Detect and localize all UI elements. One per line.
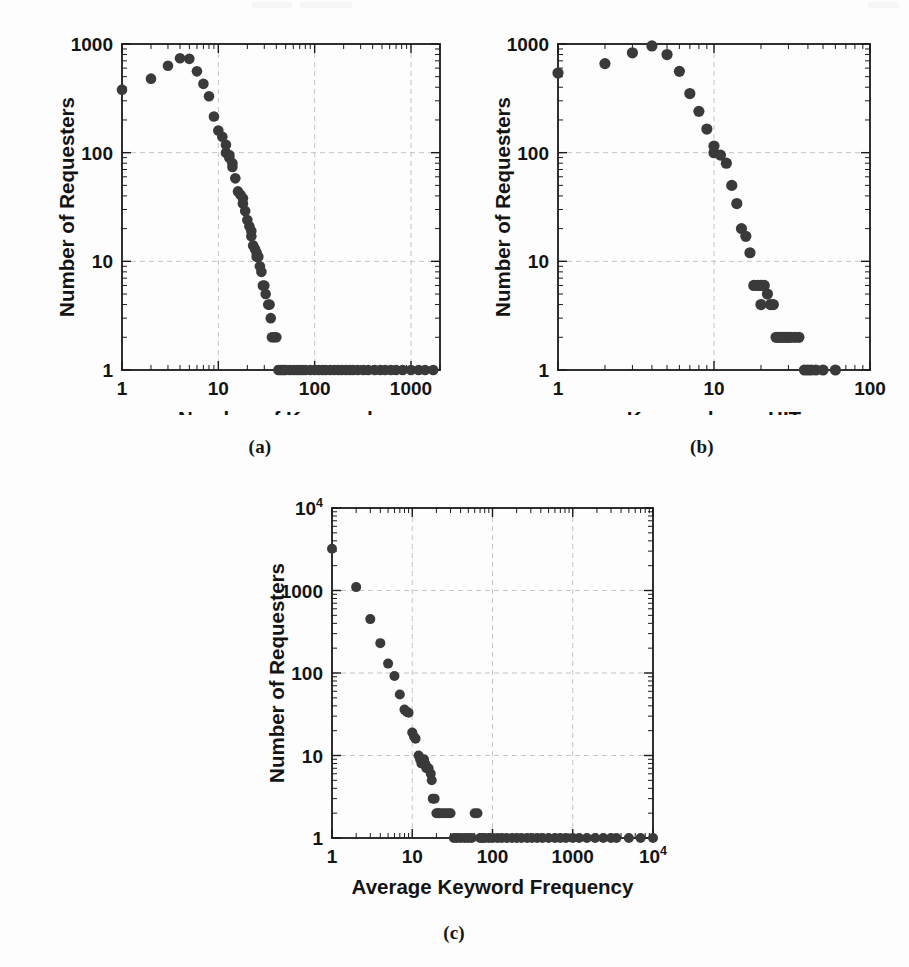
data-point xyxy=(184,54,195,65)
x-tick-label: 100 xyxy=(854,378,886,399)
x-axis-title: Number of Keywords xyxy=(178,407,384,415)
panel-c-caption: (c) xyxy=(424,922,484,944)
data-point xyxy=(648,833,658,843)
data-point-group xyxy=(117,53,439,375)
data-point xyxy=(246,231,257,242)
panel-c: 11010010001041101001000104Average Keywor… xyxy=(212,486,692,906)
data-point xyxy=(552,67,563,78)
data-point xyxy=(661,49,672,60)
y-tick-label: 10 xyxy=(528,251,549,272)
x-tick-label: 100 xyxy=(299,378,331,399)
data-point xyxy=(146,73,157,84)
data-point xyxy=(472,808,482,818)
y-axis-title: Number of Requesters xyxy=(491,97,514,317)
data-point xyxy=(721,158,732,169)
panel-b: 1101001101001000Keywords per HITNumber o… xyxy=(440,0,909,415)
data-point xyxy=(611,833,621,843)
y-tick-label: 104 xyxy=(295,496,323,519)
data-point xyxy=(204,91,215,102)
data-point-group xyxy=(552,40,841,375)
data-point xyxy=(701,123,712,134)
panel-a: 11010010001101001000Number of KeywordsNu… xyxy=(0,0,460,415)
data-point xyxy=(271,332,282,343)
x-tick-label: 104 xyxy=(639,844,667,867)
y-tick-label: 1 xyxy=(312,828,323,849)
data-point xyxy=(395,689,405,699)
data-point xyxy=(117,84,128,95)
x-tick-label: 10 xyxy=(703,378,724,399)
data-point xyxy=(230,173,241,184)
data-point xyxy=(265,313,276,324)
data-point xyxy=(175,53,186,64)
data-point xyxy=(428,365,439,376)
data-point xyxy=(365,614,375,624)
data-point xyxy=(411,734,421,744)
y-tick-label: 1000 xyxy=(507,34,549,55)
data-point xyxy=(253,252,264,263)
data-point xyxy=(192,66,203,77)
data-point xyxy=(636,833,646,843)
x-tick-label: 10 xyxy=(208,378,229,399)
x-axis-title: Average Keyword Frequency xyxy=(352,875,634,898)
data-point xyxy=(446,808,456,818)
data-point xyxy=(327,544,337,554)
data-point xyxy=(430,794,440,804)
x-axis-title: Keywords per HIT xyxy=(627,407,802,415)
y-tick-label: 100 xyxy=(81,143,113,164)
data-point xyxy=(599,58,610,69)
data-point xyxy=(726,180,737,191)
data-point xyxy=(383,659,393,669)
data-point xyxy=(264,299,275,310)
data-point xyxy=(793,332,804,343)
data-point xyxy=(731,198,742,209)
data-point xyxy=(762,288,773,299)
data-point xyxy=(684,88,695,99)
data-point xyxy=(163,61,174,72)
x-tick-label: 1000 xyxy=(390,378,432,399)
panel-b-plot: 1101001101001000Keywords per HITNumber o… xyxy=(440,0,909,415)
y-tick-label: 10 xyxy=(302,746,323,767)
x-tick-label: 100 xyxy=(477,846,509,867)
panel-c-plot: 11010010001041101001000104Average Keywor… xyxy=(212,486,692,906)
data-point xyxy=(744,247,755,258)
data-point xyxy=(693,106,704,117)
data-point xyxy=(627,47,638,58)
data-point xyxy=(375,638,385,648)
data-point xyxy=(260,289,271,300)
y-tick-label: 1 xyxy=(102,360,113,381)
y-tick-label: 10 xyxy=(92,251,113,272)
data-point xyxy=(227,162,238,173)
data-point xyxy=(646,40,657,51)
y-tick-label: 100 xyxy=(517,143,549,164)
x-tick-label: 1 xyxy=(553,378,564,399)
y-axis-title: Number of Requesters xyxy=(55,97,78,317)
data-point xyxy=(817,364,828,375)
panel-b-caption: (b) xyxy=(672,436,732,458)
x-tick-label: 1 xyxy=(117,378,128,399)
data-point xyxy=(240,206,251,217)
y-tick-label: 100 xyxy=(291,663,323,684)
data-point xyxy=(389,671,399,681)
x-tick-label: 10 xyxy=(402,846,423,867)
panel-a-caption: (a) xyxy=(230,436,290,458)
data-point xyxy=(351,582,361,592)
y-axis-title: Number of Requesters xyxy=(265,563,288,783)
data-point xyxy=(624,833,634,843)
data-point xyxy=(427,775,437,785)
panel-a-plot: 11010010001101001000Number of KeywordsNu… xyxy=(0,0,460,415)
data-point xyxy=(256,267,267,278)
y-tick-label: 1 xyxy=(538,360,549,381)
data-point xyxy=(768,299,779,310)
data-point xyxy=(209,111,220,122)
data-point xyxy=(740,231,751,242)
x-tick-label: 1 xyxy=(327,846,338,867)
data-point xyxy=(404,708,414,718)
y-tick-label: 1000 xyxy=(71,34,113,55)
data-point xyxy=(198,79,209,90)
figure-sheet: 11010010001101001000Number of KeywordsNu… xyxy=(0,0,909,967)
x-tick-label: 1000 xyxy=(552,846,594,867)
data-point xyxy=(674,66,685,77)
data-point xyxy=(830,364,841,375)
